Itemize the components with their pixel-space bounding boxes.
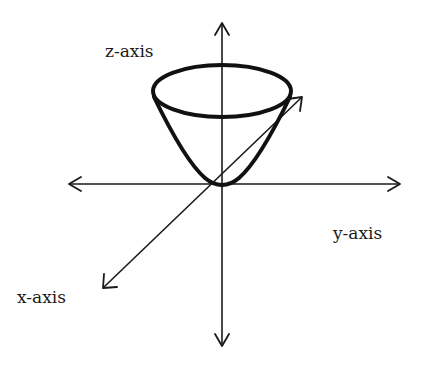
coordinate-diagram [0,0,429,365]
paraboloid-left-side [154,97,222,185]
z-axis-label: z-axis [105,43,154,60]
x-axis [103,97,302,288]
y-axis-label: y-axis [333,225,382,242]
x-axis-label: x-axis [17,289,66,306]
